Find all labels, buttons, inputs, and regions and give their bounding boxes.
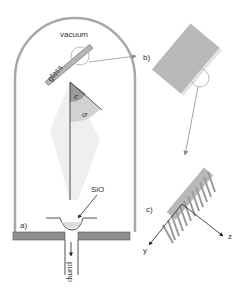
panel-b-label: b) (143, 53, 150, 62)
zoom-arrow-to-c (185, 87, 198, 155)
pump-label: pump (66, 262, 75, 283)
substrate-closeup-b (152, 23, 220, 93)
z-axis-arrow (182, 204, 223, 236)
y-axis-label: y (143, 246, 147, 255)
epsilon-symbol: ε (74, 92, 78, 101)
zoom-arrow-to-b (89, 56, 136, 62)
base-plate-right (78, 232, 130, 240)
panel-c-label: c) (146, 205, 153, 214)
panel-a-label: a) (20, 221, 27, 230)
sio-label: SiO (91, 185, 104, 194)
oblique-deposition-diagram: vacuum glass ε σ SiO a) pump b) (0, 0, 243, 296)
y-axis-arrow (149, 204, 182, 245)
z-axis-label: z (228, 232, 232, 241)
sigma-symbol: σ (82, 110, 88, 119)
substrate-closeup-c (167, 168, 213, 220)
sio-pointer-arrow (78, 195, 97, 218)
panel-c-columnar-film (163, 168, 215, 243)
base-plate-left (13, 232, 65, 240)
vacuum-label: vacuum (60, 30, 88, 39)
